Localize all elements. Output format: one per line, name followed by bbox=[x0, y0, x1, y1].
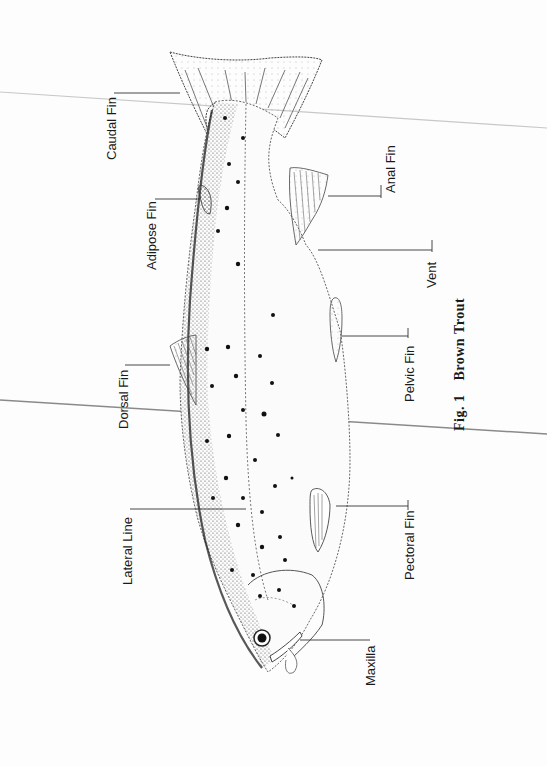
label-vent: Vent bbox=[424, 262, 439, 288]
label-pectoral-fin: Pectoral Fin bbox=[402, 511, 417, 580]
anal-fin-shape bbox=[289, 168, 328, 245]
label-lateral-line: Lateral Line bbox=[120, 517, 135, 585]
figure-number: Fig. 1 bbox=[452, 395, 467, 431]
label-caudal-fin: Caudal Fin bbox=[104, 97, 119, 160]
label-pelvic-fin: Pelvic Fin bbox=[402, 346, 417, 402]
label-maxilla: Maxilla bbox=[363, 646, 378, 686]
figure-title: Brown Trout bbox=[452, 298, 467, 381]
eye-shape bbox=[254, 630, 270, 646]
figure-caption: Fig. 1Brown Trout bbox=[452, 298, 468, 431]
label-adipose-fin: Adipose Fin bbox=[144, 201, 159, 270]
label-anal-fin: Anal Fin bbox=[383, 145, 398, 193]
label-dorsal-fin: Dorsal Fin bbox=[116, 370, 131, 429]
document-page: Caudal Fin Adipose Fin Dorsal Fin Latera… bbox=[0, 0, 547, 766]
